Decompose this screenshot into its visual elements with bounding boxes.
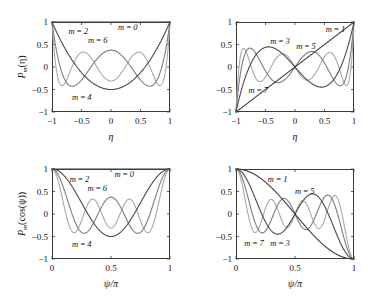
curve-annotation-m=6: m = 6 bbox=[87, 183, 107, 193]
curve-annotation-label: m = 1 bbox=[268, 174, 288, 184]
x-tick-label: −0.5 bbox=[73, 117, 89, 126]
x-axis-title: η bbox=[293, 131, 298, 142]
curve-annotation-m=0: m = 0 bbox=[118, 22, 138, 32]
x-tick-label: 0 bbox=[293, 117, 298, 126]
curve-annotation-label: m = 1 bbox=[326, 24, 346, 34]
x-tick-label: 0.5 bbox=[105, 264, 116, 273]
curve-annotation-m=6: m = 6 bbox=[88, 35, 108, 45]
curve-annotation-m=1: m = 1 bbox=[326, 24, 346, 34]
y-tick-label: 0 bbox=[210, 210, 232, 219]
curve-annotation-m=2: m = 2 bbox=[70, 174, 90, 184]
y-axis-title: Pm(η) bbox=[16, 55, 29, 78]
legendre-polynomial-figure: m = 0m = 2m = 4m = 6−1−0.500.51−1−0.500.… bbox=[0, 0, 368, 297]
curve-annotation-label: m = 4 bbox=[72, 92, 92, 102]
y-tick-label: 0.5 bbox=[210, 187, 232, 196]
curve-annotation-label: m = 6 bbox=[87, 183, 107, 193]
y-tick-label: 0.5 bbox=[26, 40, 48, 49]
y-tick-label: −0.5 bbox=[26, 85, 48, 94]
curve-annotation-label: m = 3 bbox=[270, 36, 290, 46]
curve-canvas bbox=[236, 22, 354, 112]
x-tick-label: 0.5 bbox=[135, 117, 146, 126]
curve-annotation-m=4: m = 4 bbox=[72, 92, 92, 102]
curve-annotation-label: m = 7 bbox=[248, 85, 268, 95]
y-tick-label: −0.5 bbox=[210, 232, 232, 241]
plot-panel-top-right: m = 1m = 3m = 5m = 7 bbox=[236, 22, 354, 112]
curve-annotation-m=7: m = 7 bbox=[244, 238, 264, 248]
x-tick-label: 0.5 bbox=[289, 264, 300, 273]
y-tick-label: −1 bbox=[26, 255, 48, 264]
y-tick-label: 0 bbox=[210, 63, 232, 72]
y-tick-label: −0.5 bbox=[210, 85, 232, 94]
curve-annotation-label: m = 5 bbox=[295, 186, 315, 196]
curve-annotation-m=3: m = 3 bbox=[270, 36, 290, 46]
plot-panel-top-left: m = 0m = 2m = 4m = 6 bbox=[52, 22, 170, 112]
curve-annotation-label: m = 4 bbox=[72, 239, 92, 249]
curve-m=1 bbox=[236, 22, 354, 112]
x-tick-label: 0 bbox=[234, 264, 239, 273]
y-tick-label: 1 bbox=[26, 18, 48, 27]
x-tick-label: 0 bbox=[109, 117, 114, 126]
x-axis-title: ψ/π bbox=[104, 278, 118, 289]
curve-annotation-m=1: m = 1 bbox=[268, 174, 288, 184]
curve-annotation-m=5: m = 5 bbox=[296, 41, 316, 51]
curve-annotation-label: m = 7 bbox=[244, 238, 264, 248]
curve-annotation-label: m = 2 bbox=[69, 26, 89, 36]
y-tick-label: −1 bbox=[210, 255, 232, 264]
x-tick-label: 0 bbox=[50, 264, 55, 273]
plot-panel-bottom-right: m = 1m = 3m = 5m = 7 bbox=[236, 169, 354, 259]
curve-annotation-m=3: m = 3 bbox=[270, 238, 290, 248]
curve-annotation-m=5: m = 5 bbox=[295, 186, 315, 196]
curve-annotation-label: m = 0 bbox=[115, 169, 135, 179]
curve-annotation-m=7: m = 7 bbox=[248, 85, 268, 95]
curve-annotation-m=0: m = 0 bbox=[115, 169, 135, 179]
y-tick-label: −1 bbox=[26, 108, 48, 117]
x-tick-label: 1 bbox=[168, 264, 173, 273]
x-tick-label: 1 bbox=[168, 117, 173, 126]
x-tick-label: 0.5 bbox=[319, 117, 330, 126]
plot-panel-bottom-left: m = 0m = 2m = 4m = 6 bbox=[52, 169, 170, 259]
y-tick-label: 0 bbox=[26, 210, 48, 219]
y-tick-label: 0.5 bbox=[26, 187, 48, 196]
x-tick-label: −0.5 bbox=[257, 117, 273, 126]
x-tick-label: 1 bbox=[352, 117, 357, 126]
curve-annotation-label: m = 5 bbox=[296, 41, 316, 51]
x-tick-label: 1 bbox=[352, 264, 357, 273]
y-axis-title: Pm(cos(ψ)) bbox=[16, 192, 29, 236]
curve-annotation-m=2: m = 2 bbox=[69, 26, 89, 36]
y-tick-label: −1 bbox=[210, 108, 232, 117]
y-tick-label: 0.5 bbox=[210, 40, 232, 49]
curve-annotation-m=4: m = 4 bbox=[72, 239, 92, 249]
x-axis-title: ψ/π bbox=[288, 278, 302, 289]
x-axis-title: η bbox=[109, 131, 114, 142]
y-tick-label: 1 bbox=[210, 165, 232, 174]
curve-annotation-label: m = 6 bbox=[88, 35, 108, 45]
curve-annotation-label: m = 2 bbox=[70, 174, 90, 184]
y-tick-label: 0 bbox=[26, 63, 48, 72]
curve-annotation-label: m = 0 bbox=[118, 22, 138, 32]
y-tick-label: 1 bbox=[210, 18, 232, 27]
y-tick-label: −0.5 bbox=[26, 232, 48, 241]
y-tick-label: 1 bbox=[26, 165, 48, 174]
curve-annotation-label: m = 3 bbox=[270, 238, 290, 248]
x-tick-label: −1 bbox=[47, 117, 57, 126]
x-tick-label: −1 bbox=[231, 117, 241, 126]
